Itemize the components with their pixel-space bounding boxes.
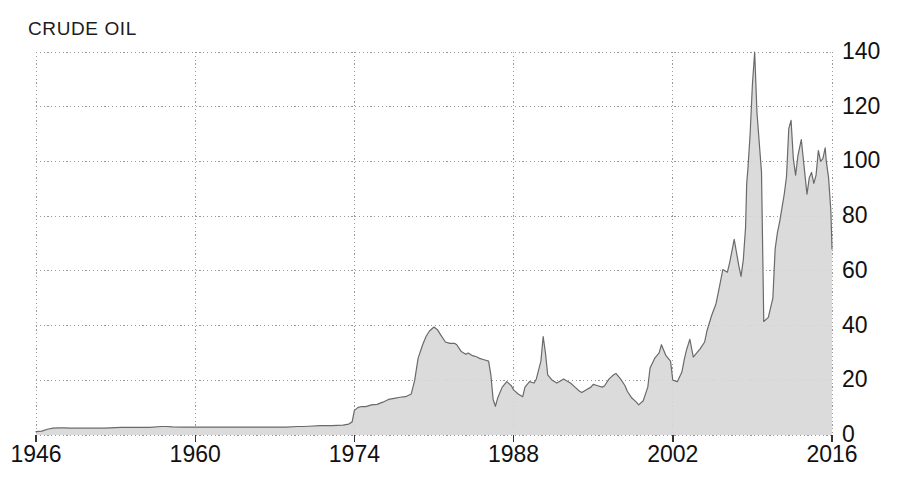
y-axis-tick-label: 120 [842, 95, 880, 118]
x-axis-tick-label: 1974 [309, 443, 399, 466]
y-axis-tick-label: 60 [842, 259, 868, 282]
chart-tickmarks [36, 435, 832, 442]
chart-plot-area [0, 0, 897, 496]
y-axis-tick-label: 140 [842, 40, 880, 63]
y-axis-tick-label: 20 [842, 368, 868, 391]
x-axis-tick-label: 1960 [150, 443, 240, 466]
y-axis-tick-label: 100 [842, 149, 880, 172]
chart-figure: CRUDE OIL 020406080100120140 19461960197… [0, 0, 897, 496]
figure-footnote [352, 486, 892, 496]
y-axis-tick-label: 80 [842, 204, 868, 227]
x-axis-tick-label: 2016 [787, 443, 877, 466]
series-area-fill [36, 52, 832, 435]
x-axis-tick-label: 1946 [0, 443, 81, 466]
y-axis-tick-label: 40 [842, 314, 868, 337]
chart-series-layer [36, 52, 832, 435]
x-axis-tick-label: 2002 [628, 443, 718, 466]
x-axis-tick-label: 1988 [469, 443, 559, 466]
